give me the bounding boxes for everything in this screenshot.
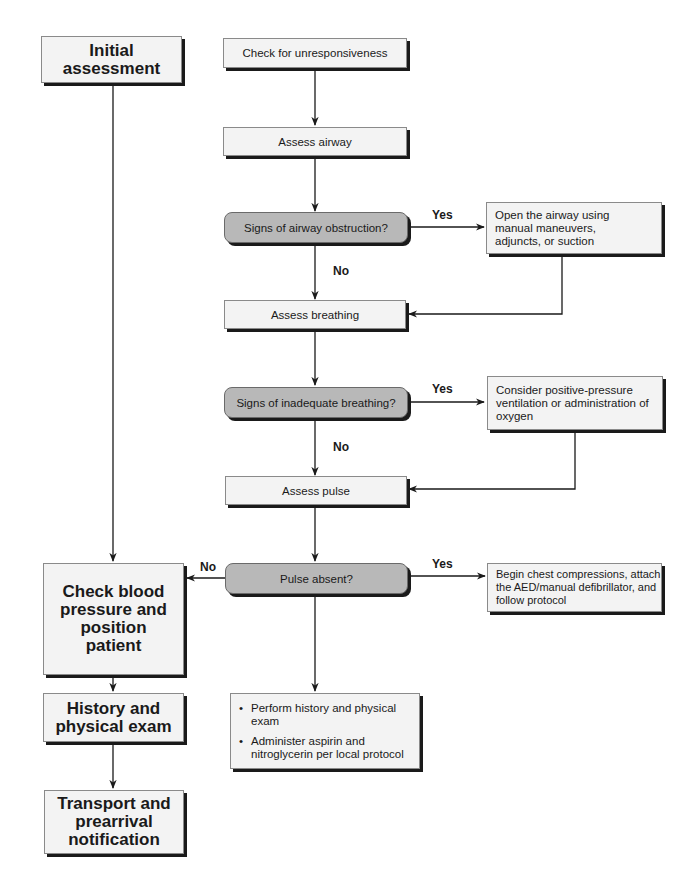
yes-label-airway: Yes (432, 208, 453, 222)
final-actions-box: • Perform history and physical exam • Ad… (230, 693, 420, 769)
final-action-item: • Perform history and physical exam (239, 702, 411, 728)
history-exam-box: History and physical exam (43, 693, 184, 742)
initial-assessment-box: Initial assessment (41, 36, 182, 83)
chest-compressions-box: Begin chest compressions, attach the AED… (487, 563, 662, 612)
bullet-icon: • (239, 735, 251, 761)
no-label-breathing: No (333, 440, 349, 454)
yes-label-pulse: Yes (432, 557, 453, 571)
check-unresponsiveness-box: Check for unresponsiveness (223, 38, 407, 68)
no-label-pulse: No (200, 560, 216, 574)
pulse-absent-text: Pulse absent? (280, 573, 353, 585)
assess-pulse-text: Assess pulse (282, 485, 350, 497)
consider-ppv-box: Consider positive-pressure ventilation o… (487, 376, 663, 430)
final-action-text: Perform history and physical exam (251, 702, 411, 728)
assess-airway-text: Assess airway (278, 136, 352, 148)
check-bp-text: Check blood pressure and position patien… (44, 583, 183, 655)
assess-pulse-box: Assess pulse (225, 476, 407, 505)
history-exam-text: History and physical exam (44, 700, 183, 736)
consider-ppv-text: Consider positive-pressure ventilation o… (496, 384, 662, 423)
transport-box: Transport and prearrival notification (44, 790, 184, 854)
assess-airway-box: Assess airway (223, 127, 407, 156)
open-airway-box: Open the airway using manual maneuvers, … (486, 202, 662, 254)
inadequate-breathing-text: Signs of inadequate breathing? (236, 397, 395, 409)
initial-assessment-text: Initial assessment (42, 42, 181, 78)
bullet-icon: • (239, 702, 251, 728)
final-action-text: Administer aspirin and nitroglycerin per… (251, 735, 411, 761)
pulse-absent-decision: Pulse absent? (225, 563, 408, 594)
airway-obstruction-decision: Signs of airway obstruction? (224, 212, 408, 243)
yes-label-breathing: Yes (432, 382, 453, 396)
inadequate-breathing-decision: Signs of inadequate breathing? (224, 387, 408, 418)
assess-breathing-box: Assess breathing (224, 300, 406, 329)
open-airway-text: Open the airway using manual maneuvers, … (495, 209, 661, 248)
chest-compressions-text: Begin chest compressions, attach the AED… (496, 568, 661, 607)
transport-text: Transport and prearrival notification (45, 795, 183, 849)
airway-obstruction-text: Signs of airway obstruction? (244, 222, 388, 234)
assess-breathing-text: Assess breathing (271, 309, 359, 321)
check-unresponsiveness-text: Check for unresponsiveness (242, 47, 387, 59)
check-bp-box: Check blood pressure and position patien… (43, 563, 184, 675)
no-label-airway: No (333, 264, 349, 278)
final-action-item: • Administer aspirin and nitroglycerin p… (239, 735, 411, 761)
